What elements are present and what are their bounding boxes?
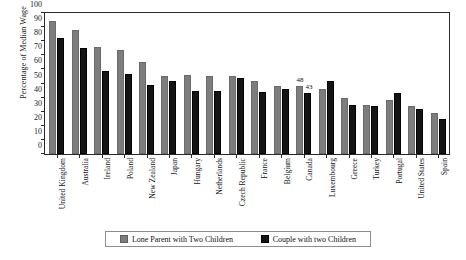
bar-couple [125, 74, 132, 154]
y-axis-title: Percentage of Median Wage [19, 0, 28, 133]
bar-lone-parent [251, 81, 258, 154]
bar-couple [416, 109, 423, 154]
bar-group [229, 13, 244, 154]
bar-couple [327, 81, 334, 154]
bar-lone-parent [161, 76, 168, 154]
x-tick-label: Luxembourg [329, 158, 337, 197]
bar-group [386, 13, 401, 154]
x-tick-label: Ireland [104, 158, 112, 180]
y-tick-label: 80 [34, 29, 42, 37]
bar-group [117, 13, 132, 154]
bar-couple [192, 91, 199, 154]
legend-label: Couple with two Children [273, 235, 356, 244]
x-tick-label: United States [418, 158, 426, 199]
bar-lone-parent [206, 76, 213, 154]
bar-group [184, 13, 199, 154]
x-tick-label: Spain [441, 158, 449, 175]
bar-couple [102, 71, 109, 154]
bar-lone-parent [408, 106, 415, 154]
legend-swatch-lone [120, 235, 128, 243]
bar-lone-parent [386, 100, 393, 154]
legend-label: Lone Parent with Two Children [132, 235, 233, 244]
bar-lone-parent [274, 86, 281, 154]
x-tick-label: Greece [351, 158, 359, 180]
bar-lone-parent [229, 76, 236, 154]
bar-couple [214, 91, 221, 154]
x-tick-label: Belgium [284, 158, 292, 184]
bar-lone-parent [363, 105, 370, 154]
bar-couple [439, 119, 446, 154]
x-tick-label: United Kingdom [59, 158, 67, 209]
bar-lone-parent [49, 21, 56, 154]
bar-group [72, 13, 87, 154]
bar-lone-parent [94, 47, 101, 154]
x-tick-label: Hungary [194, 158, 202, 185]
y-tick-label: 30 [34, 100, 42, 108]
y-tick-label: 100 [30, 1, 42, 9]
bar-group [206, 13, 221, 154]
bar-value-label: 43 [302, 84, 316, 91]
bar-couple [259, 92, 266, 154]
y-tick-label: 60 [34, 57, 42, 65]
legend-swatch-couple [261, 235, 269, 243]
y-tick-label: 40 [34, 86, 42, 94]
y-tick-label: 90 [34, 15, 42, 23]
bar-couple [147, 85, 154, 154]
bar-group [49, 13, 64, 154]
bar-group [94, 13, 109, 154]
x-tick-label: Netherlands [216, 158, 224, 195]
x-tick-label: Turkey [373, 158, 381, 180]
y-tick-label: 10 [34, 128, 42, 136]
y-tick-label: 20 [34, 114, 42, 122]
bar-group [139, 13, 154, 154]
bars-layer: 4843 [45, 13, 449, 154]
x-tick-label: France [261, 158, 269, 179]
bar-lone-parent [341, 98, 348, 154]
x-tick-label: Portugal [396, 158, 404, 184]
bar-couple [237, 78, 244, 154]
bar-group [363, 13, 378, 154]
legend-entry: Couple with two Children [261, 235, 356, 244]
bar-value-label: 48 [293, 77, 307, 84]
legend-entry: Lone Parent with Two Children [120, 235, 233, 244]
bar-lone-parent [296, 86, 303, 154]
bar-couple [371, 106, 378, 154]
bar-group [341, 13, 356, 154]
bar-group [408, 13, 423, 154]
bar-lone-parent [184, 75, 191, 154]
x-tick-label: Czech Republic [239, 158, 247, 206]
y-tick-label: 0 [38, 142, 42, 150]
bar-group [431, 13, 446, 154]
bar-lone-parent [431, 113, 438, 154]
bar-couple [394, 93, 401, 154]
bar-couple [169, 81, 176, 154]
bar-group [251, 13, 266, 154]
bar-couple [349, 105, 356, 154]
x-tick-label: Canada [306, 158, 314, 181]
bar-couple [282, 89, 289, 154]
x-tick-label: New Zealand [149, 158, 157, 199]
x-tick-label: Australia [82, 158, 90, 186]
bar-lone-parent [117, 50, 124, 154]
bar-lone-parent [72, 30, 79, 154]
x-axis-labels: United KingdomAustraliaIrelandPolandNew … [44, 158, 450, 224]
bar-group [274, 13, 289, 154]
plot-area: 0102030405060708090100 4843 [44, 12, 450, 155]
bar-lone-parent [319, 89, 326, 154]
bar-group [161, 13, 176, 154]
bar-couple [304, 93, 311, 154]
chart-figure: Percentage of Median Wage 01020304050607… [0, 0, 466, 260]
bar-lone-parent [139, 62, 146, 154]
chart-legend: Lone Parent with Two ChildrenCouple with… [105, 231, 371, 247]
bar-couple [80, 48, 87, 154]
x-tick-label: Japan [171, 158, 179, 175]
x-tick-label: Poland [127, 158, 135, 179]
y-tick-label: 70 [34, 43, 42, 51]
bar-group: 4843 [296, 13, 311, 154]
y-tick-label: 50 [34, 72, 42, 80]
bar-couple [57, 38, 64, 154]
bar-group [319, 13, 334, 154]
